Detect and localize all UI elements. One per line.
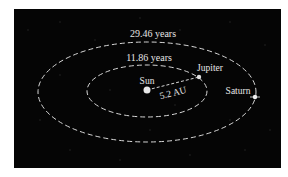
orbit-diagram: 29.46 years 11.86 years Sun Jupiter Satu…	[0, 0, 288, 177]
saturn-label: Saturn	[226, 86, 251, 96]
saturn-period-label: 29.46 years	[130, 28, 176, 39]
jupiter-label: Jupiter	[197, 63, 224, 73]
sun-icon	[144, 87, 151, 94]
jupiter-icon	[197, 75, 201, 79]
jupiter-period-label: 11.86 years	[126, 52, 172, 63]
distance-label: 5.2 AU	[158, 85, 187, 101]
saturn-icon	[250, 95, 260, 99]
sun-label: Sun	[140, 76, 155, 86]
